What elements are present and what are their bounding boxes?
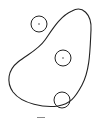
circle-2-center-dot [62,57,63,58]
circle-1-center-dot [38,23,39,24]
blob-region [9,9,91,106]
circle-group [31,16,71,108]
diagram-canvas [0,0,97,123]
diagram-caption [36,115,46,118]
